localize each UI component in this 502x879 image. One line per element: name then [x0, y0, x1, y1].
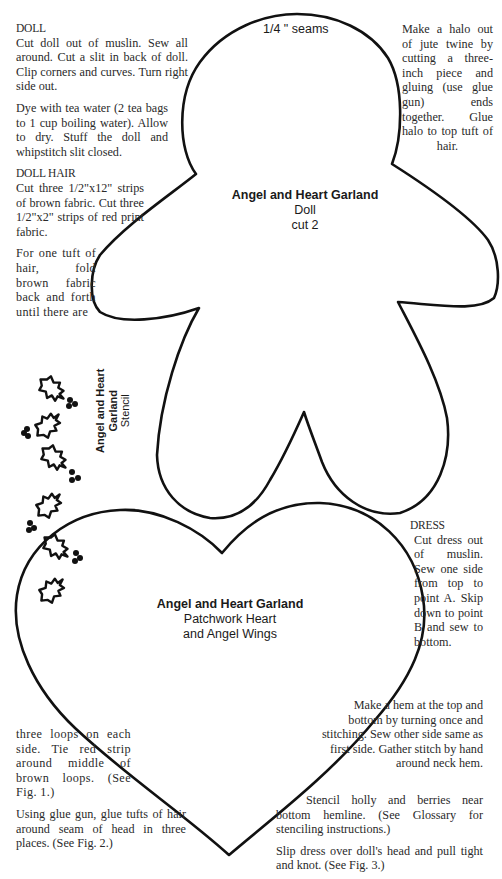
dress-para-4: Slip dress over doll's head and pull tig…	[276, 844, 483, 873]
seam-allowance-note: 1/4 " seams	[263, 22, 329, 36]
heart-pattern-line2: and Angel Wings	[130, 627, 330, 642]
dress-para-3: Stencil holly and berries near bottom he…	[276, 793, 483, 837]
doll-heading: DOLL	[16, 21, 188, 36]
holly-leaf-icon	[34, 572, 69, 607]
doll-hair-para-2-start: For one tuft of hair, fold brown fabric …	[16, 246, 96, 319]
stencil-label-line3: Stencil	[119, 361, 132, 461]
doll-para-2: Dye with tea water (2 tea bags to 1 cup …	[16, 101, 168, 159]
halo-para: Make a halo out of jute twine by cutting…	[402, 22, 493, 153]
berry-icon	[72, 550, 83, 564]
doll-hair-para-3: Using glue gun, glue tufts of hair aroun…	[16, 807, 186, 851]
dress-para-2: Make a hem at the top and bottom by turn…	[320, 698, 483, 771]
berry-icon	[69, 469, 81, 483]
dress-heading: DRESS	[410, 518, 483, 533]
doll-pattern-subtitle: Doll	[205, 203, 405, 218]
stencil-label-line2: Garland	[107, 361, 120, 461]
doll-hair-continued: three loops on each side. Tie red strip …	[16, 727, 131, 851]
heart-pattern-title: Angel and Heart Garland	[130, 597, 330, 612]
heart-pattern-line1: Patchwork Heart	[130, 612, 330, 627]
doll-hair-para-1: Cut three 1/2"x12" strips of brown fabri…	[16, 181, 144, 239]
holly-leaf-icon	[34, 372, 70, 407]
doll-pattern-title: Angel and Heart Garland	[205, 188, 405, 203]
holly-leaf-icon	[36, 441, 72, 476]
dress-para-1: Cut dress out of muslin. Sew one side fr…	[410, 533, 483, 650]
dress-instructions: DRESS Cut dress out of muslin. Sew one s…	[410, 518, 483, 649]
doll-cut-note: cut 2	[205, 218, 405, 233]
doll-pattern-label: Angel and Heart Garland Doll cut 2	[205, 188, 405, 233]
holly-leaf-icon	[38, 530, 74, 565]
halo-instructions: Make a halo out of jute twine by cutting…	[402, 22, 493, 153]
stencil-label-line1: Angel and Heart	[94, 361, 107, 461]
doll-para-1: Cut doll out of muslin. Sew all around. …	[16, 36, 188, 94]
dress-instructions-stencil: Stencil holly and berries near bottom he…	[276, 793, 483, 873]
berry-icon	[26, 520, 37, 533]
doll-hair-heading: DOLL HAIR	[16, 166, 188, 181]
heart-pattern-label: Angel and Heart Garland Patchwork Heart …	[130, 597, 330, 642]
berry-icon	[66, 397, 78, 409]
doll-instructions: DOLL Cut doll out of muslin. Sew all aro…	[16, 21, 188, 319]
holly-leaf-icon	[31, 487, 66, 522]
berry-clusters	[21, 397, 83, 564]
dress-instructions-hem: Make a hem at the top and bottom by turn…	[320, 698, 483, 771]
stencil-label: Angel and Heart Garland Stencil	[94, 361, 132, 461]
doll-hair-para-2-end: three loops on each side. Tie red strip …	[16, 727, 131, 800]
berry-icon	[21, 426, 31, 439]
holly-leaf-icon	[30, 407, 65, 442]
